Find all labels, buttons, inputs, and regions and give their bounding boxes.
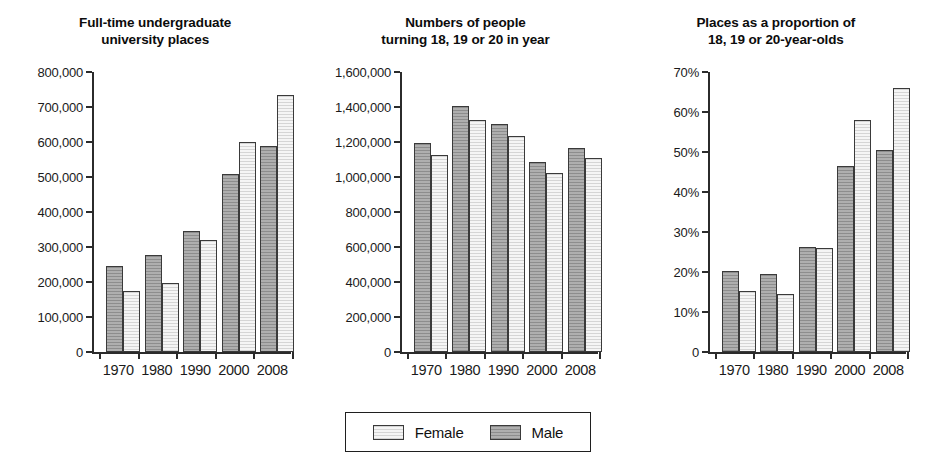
plot-area-2: 010%20%30%40%50%60%70%197019801990200020… <box>621 0 931 400</box>
bar-2-1980-male <box>760 274 777 352</box>
bar-2-1970-female <box>739 291 756 352</box>
x-tick-label-2-1: 1980 <box>753 362 792 378</box>
legend-swatch-female-icon <box>373 425 404 440</box>
y-tick-label-1-1: 200,000 <box>345 310 391 325</box>
y-tick-label-0-0: 0 <box>76 345 83 360</box>
bar-1-2000-male <box>529 162 546 352</box>
x-axis-line-2 <box>708 352 907 354</box>
bars-layer-2 <box>621 0 931 352</box>
y-tick-label-2-5: 50% <box>674 145 699 160</box>
bar-0-2000-male <box>222 174 239 352</box>
y-tick-1-6 <box>394 141 400 143</box>
x-tick-label-0-1: 1980 <box>138 362 177 378</box>
y-tick-label-1-2: 400,000 <box>345 275 391 290</box>
y-tick-1-4 <box>394 211 400 213</box>
figure-bar-chart-panels: Full-time undergraduate university place… <box>0 0 931 471</box>
x-tick-2-0 <box>715 352 717 359</box>
y-tick-2-6 <box>702 111 708 113</box>
bar-0-1990-female <box>200 240 217 352</box>
x-tick-label-2-2: 1990 <box>792 362 831 378</box>
bar-1-2008-male <box>568 148 585 352</box>
y-tick-0-3 <box>86 246 92 248</box>
y-tick-label-1-3: 600,000 <box>345 240 391 255</box>
y-tick-label-0-6: 600,000 <box>37 135 83 150</box>
x-tick-label-0-3: 2000 <box>215 362 254 378</box>
y-tick-2-2 <box>702 271 708 273</box>
bar-2-2008-male <box>876 150 893 352</box>
y-tick-0-0 <box>86 351 92 353</box>
bar-0-1970-male <box>106 266 123 352</box>
bar-2-2008-female <box>893 88 910 352</box>
x-tick-2-4 <box>869 352 871 359</box>
bar-1-2008-female <box>585 158 602 352</box>
x-tick-1-end <box>599 352 601 359</box>
x-tick-label-0-4: 2008 <box>253 362 292 378</box>
x-tick-label-0-2: 1990 <box>176 362 215 378</box>
y-tick-2-4 <box>702 191 708 193</box>
bar-0-1990-male <box>183 231 200 352</box>
legend-label-male: Male <box>532 424 564 441</box>
chart-panel-1: Numbers of people turning 18, 19 or 20 i… <box>310 0 620 400</box>
x-tick-label-0-0: 1970 <box>99 362 138 378</box>
y-tick-0-1 <box>86 316 92 318</box>
bar-1-1970-male <box>414 143 431 352</box>
chart-panels: Full-time undergraduate university place… <box>0 0 931 400</box>
y-tick-label-2-0: 0 <box>692 345 699 360</box>
x-tick-0-0 <box>99 352 101 359</box>
y-tick-0-4 <box>86 211 92 213</box>
bar-1-1970-female <box>431 155 448 352</box>
y-tick-label-1-7: 1,400,000 <box>335 100 391 115</box>
y-tick-label-0-3: 300,000 <box>37 240 83 255</box>
y-tick-2-7 <box>702 71 708 73</box>
x-tick-label-1-3: 2000 <box>522 362 561 378</box>
chart-legend: Female Male <box>345 412 591 452</box>
x-tick-label-1-4: 2008 <box>561 362 600 378</box>
y-tick-0-8 <box>86 71 92 73</box>
y-tick-1-2 <box>394 281 400 283</box>
y-tick-label-0-8: 800,000 <box>37 65 83 80</box>
y-tick-label-1-8: 1,600,000 <box>335 65 391 80</box>
y-tick-label-1-6: 1,200,000 <box>335 135 391 150</box>
y-tick-1-0 <box>394 351 400 353</box>
x-tick-2-2 <box>792 352 794 359</box>
x-tick-label-1-2: 1990 <box>484 362 523 378</box>
bar-0-2000-female <box>239 142 256 352</box>
x-tick-1-3 <box>522 352 524 359</box>
x-tick-2-end <box>907 352 909 359</box>
y-tick-label-1-0: 0 <box>384 345 391 360</box>
y-tick-1-8 <box>394 71 400 73</box>
x-tick-0-2 <box>176 352 178 359</box>
y-tick-label-2-3: 30% <box>674 225 699 240</box>
y-tick-label-2-2: 20% <box>674 265 699 280</box>
x-tick-label-2-0: 1970 <box>715 362 754 378</box>
bar-1-1980-male <box>452 106 469 352</box>
x-axis-line-1 <box>400 352 599 354</box>
bar-1-1990-male <box>491 124 508 352</box>
legend-swatch-male-icon <box>490 425 521 440</box>
y-tick-1-3 <box>394 246 400 248</box>
x-tick-0-end <box>292 352 294 359</box>
y-tick-label-2-6: 60% <box>674 105 699 120</box>
y-tick-label-0-2: 200,000 <box>37 275 83 290</box>
y-tick-label-2-7: 70% <box>674 65 699 80</box>
y-tick-1-5 <box>394 176 400 178</box>
y-tick-2-3 <box>702 231 708 233</box>
legend-entry-male: Male <box>490 424 564 441</box>
plot-area-0: 0100,000200,000300,000400,000500,000600,… <box>0 0 310 400</box>
y-tick-label-0-4: 400,000 <box>37 205 83 220</box>
chart-panel-2: Places as a proportion of 18, 19 or 20-y… <box>621 0 931 400</box>
y-tick-label-1-4: 800,000 <box>345 205 391 220</box>
bar-2-2000-male <box>837 166 854 352</box>
bar-1-1980-female <box>469 120 486 352</box>
x-tick-label-2-4: 2008 <box>869 362 908 378</box>
y-tick-label-0-7: 700,000 <box>37 100 83 115</box>
bar-1-2000-female <box>546 173 563 352</box>
y-tick-0-7 <box>86 106 92 108</box>
x-tick-2-1 <box>753 352 755 359</box>
x-tick-1-4 <box>561 352 563 359</box>
x-tick-label-2-3: 2000 <box>830 362 869 378</box>
y-tick-label-2-4: 40% <box>674 185 699 200</box>
y-tick-0-5 <box>86 176 92 178</box>
legend-label-female: Female <box>415 424 464 441</box>
bar-2-1990-male <box>799 247 816 352</box>
